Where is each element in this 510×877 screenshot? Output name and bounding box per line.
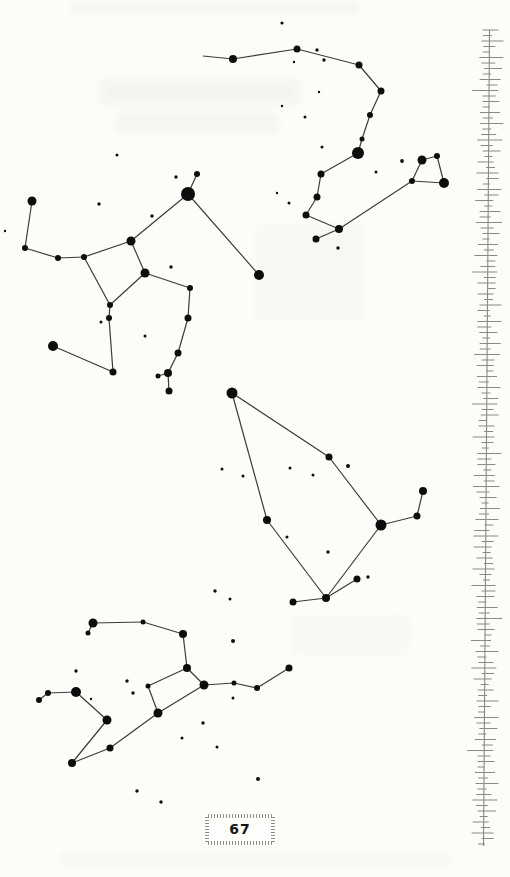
field-star xyxy=(232,697,235,700)
field-star xyxy=(318,91,320,93)
constellation-line xyxy=(110,713,158,748)
field-star xyxy=(174,175,177,178)
field-star xyxy=(116,154,119,157)
field-star xyxy=(97,202,100,205)
field-star xyxy=(159,800,162,803)
field-star xyxy=(315,48,318,51)
star xyxy=(110,369,117,376)
constellation-line xyxy=(293,598,326,602)
star xyxy=(156,374,161,379)
field-star xyxy=(366,575,369,578)
star xyxy=(175,350,182,357)
field-star xyxy=(326,550,329,553)
constellation-line xyxy=(257,668,289,688)
constellation-line xyxy=(267,520,326,598)
star xyxy=(86,631,91,636)
star xyxy=(229,55,237,63)
star xyxy=(367,112,373,118)
star xyxy=(434,153,440,159)
constellation-line xyxy=(93,622,143,623)
constellation-line xyxy=(84,241,131,257)
constellation-line xyxy=(25,248,58,258)
constellation-line xyxy=(306,215,339,229)
field-star xyxy=(293,61,295,63)
star xyxy=(376,520,387,531)
hatch-border-top xyxy=(208,814,272,818)
star xyxy=(179,630,187,638)
constellation-line xyxy=(297,49,359,65)
field-star xyxy=(276,192,278,194)
constellation-line xyxy=(362,115,370,139)
star xyxy=(335,225,343,233)
star xyxy=(154,709,163,718)
star xyxy=(360,137,365,142)
field-star xyxy=(400,159,404,163)
star xyxy=(107,745,114,752)
constellation-mid-left-group xyxy=(22,171,264,395)
field-star xyxy=(169,265,172,268)
constellation-line xyxy=(234,683,257,688)
star xyxy=(227,388,238,399)
constellation-line xyxy=(143,622,183,634)
field-star xyxy=(201,721,204,724)
constellation-line xyxy=(148,668,187,686)
field-star xyxy=(150,214,153,217)
border-spine xyxy=(484,30,490,846)
star xyxy=(303,212,310,219)
field-star xyxy=(375,171,378,174)
star xyxy=(164,369,172,377)
field-star xyxy=(213,589,216,592)
star xyxy=(254,685,260,691)
constellation-line xyxy=(326,579,357,598)
star xyxy=(183,664,191,672)
constellation-line xyxy=(317,174,321,197)
star xyxy=(71,687,81,697)
star xyxy=(322,594,330,602)
star xyxy=(352,147,364,159)
constellation-line xyxy=(84,257,110,305)
star xyxy=(185,315,192,322)
star xyxy=(356,62,363,69)
constellation-line xyxy=(339,181,412,229)
star xyxy=(48,341,58,351)
star xyxy=(89,619,98,628)
star xyxy=(354,576,361,583)
star xyxy=(378,88,385,95)
star xyxy=(103,716,112,725)
star xyxy=(418,156,427,165)
star xyxy=(22,245,28,251)
field-star xyxy=(322,58,325,61)
field-star xyxy=(286,536,289,539)
star xyxy=(439,178,449,188)
star xyxy=(326,454,333,461)
star xyxy=(106,315,112,321)
constellation-line xyxy=(76,692,107,720)
star xyxy=(318,171,325,178)
star xyxy=(141,620,146,625)
star xyxy=(127,237,136,246)
field-star xyxy=(321,146,324,149)
constellation-line xyxy=(203,56,233,59)
star xyxy=(141,269,150,278)
constellation-line xyxy=(326,525,381,598)
star xyxy=(200,681,209,690)
star xyxy=(294,46,301,53)
star xyxy=(194,171,200,177)
constellation-line xyxy=(329,457,381,525)
book-page: 67 xyxy=(0,0,510,877)
hatch-border-bottom xyxy=(208,841,272,845)
field-star xyxy=(221,468,224,471)
star xyxy=(81,254,87,260)
constellation-line xyxy=(131,194,188,241)
star xyxy=(263,516,271,524)
star xyxy=(36,697,42,703)
field-star xyxy=(231,639,235,643)
field-star xyxy=(144,335,147,338)
star xyxy=(28,197,37,206)
star xyxy=(55,255,61,261)
constellation-line xyxy=(188,288,190,318)
constellation-bottom-group xyxy=(36,619,293,768)
field-star xyxy=(304,116,307,119)
star xyxy=(414,513,421,520)
star xyxy=(166,388,173,395)
